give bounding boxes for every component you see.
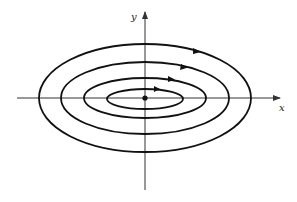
equilibrium-point xyxy=(142,95,147,100)
orbit-1-arrow-icon xyxy=(154,86,160,92)
x-axis-label: x xyxy=(279,102,285,113)
y-axis-label: y xyxy=(130,11,137,22)
orbit-3-arrow-icon xyxy=(180,64,188,70)
phase-portrait-diagram: x y xyxy=(0,0,297,202)
